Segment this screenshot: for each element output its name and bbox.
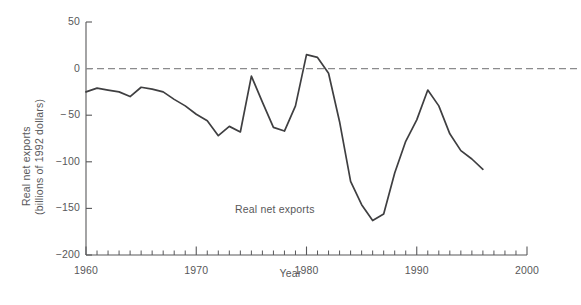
y-axis-tick-label: 50 (24, 15, 80, 27)
y-axis-tick-label: 0 (24, 62, 80, 74)
y-axis-title-line1: Real net exports (20, 126, 32, 206)
y-axis-ticks (86, 22, 92, 255)
chart-figure: 500− 50−100−150−200 19601970198019902000… (0, 0, 581, 305)
series-line-real-net-exports (86, 55, 483, 221)
y-axis-tick-label: −200 (24, 248, 80, 260)
y-axis-title-line2: (billions of 1992 dollars) (33, 99, 45, 215)
series-annotation-real-net-exports: Real net exports (235, 203, 315, 215)
x-axis-title: Year (0, 267, 581, 279)
chart-canvas (0, 0, 581, 305)
